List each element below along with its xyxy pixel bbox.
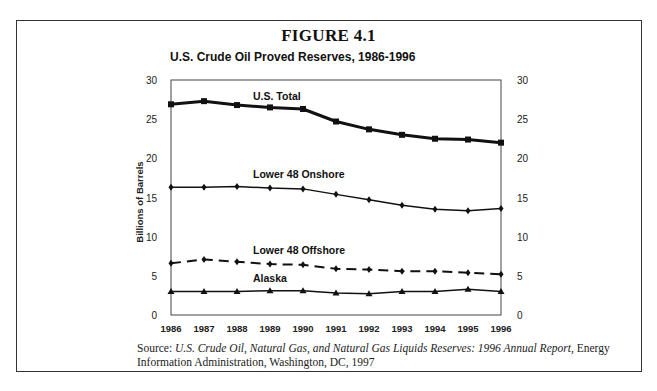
marker-square bbox=[465, 137, 471, 143]
x-tick-label: 1994 bbox=[424, 323, 446, 334]
marker-square bbox=[168, 101, 174, 107]
marker-diamond bbox=[169, 260, 174, 267]
plot-area: 0510152025300510152025301986198719881989… bbox=[134, 75, 529, 334]
x-tick-label: 1991 bbox=[325, 323, 347, 334]
source-citation: Source: U.S. Crude Oil, Natural Gas, and… bbox=[137, 341, 637, 369]
secondary-y-tick-label: 15 bbox=[517, 193, 529, 204]
secondary-y-tick-label: 25 bbox=[517, 114, 529, 125]
source-prefix: Source: bbox=[137, 342, 175, 354]
x-tick-label: 1987 bbox=[193, 323, 214, 334]
marker-square bbox=[432, 136, 438, 142]
x-tick-label: 1988 bbox=[226, 323, 247, 334]
series-label: Lower 48 Onshore bbox=[253, 168, 345, 180]
x-tick-label: 1992 bbox=[358, 323, 379, 334]
y-tick-label: 15 bbox=[146, 193, 158, 204]
marker-diamond bbox=[202, 184, 207, 191]
series-line-lower-48-onshore bbox=[171, 187, 501, 211]
marker-square bbox=[498, 140, 504, 146]
marker-diamond bbox=[235, 258, 240, 265]
x-tick-label: 1986 bbox=[160, 323, 181, 334]
marker-diamond bbox=[400, 202, 405, 209]
marker-diamond bbox=[367, 196, 372, 203]
marker-square bbox=[201, 98, 207, 104]
marker-diamond bbox=[499, 205, 504, 212]
y-tick-label: 25 bbox=[146, 114, 158, 125]
marker-diamond bbox=[466, 269, 471, 276]
marker-square bbox=[399, 132, 405, 138]
x-tick-label: 1995 bbox=[457, 323, 479, 334]
secondary-y-tick-label: 0 bbox=[517, 310, 523, 321]
y-tick-label: 20 bbox=[146, 153, 158, 164]
source-title: U.S. Crude Oil, Natural Gas, and Natural… bbox=[175, 342, 571, 354]
marker-diamond bbox=[334, 191, 339, 198]
y-tick-label: 0 bbox=[151, 310, 157, 321]
marker-diamond bbox=[268, 185, 273, 192]
series-label: U.S. Total bbox=[253, 90, 301, 102]
y-tick-label: 5 bbox=[151, 271, 157, 282]
marker-diamond bbox=[301, 261, 306, 268]
secondary-y-tick-label: 30 bbox=[517, 75, 529, 86]
marker-square bbox=[300, 106, 306, 112]
secondary-y-tick-label: 20 bbox=[517, 153, 529, 164]
marker-diamond bbox=[400, 268, 405, 275]
marker-square bbox=[333, 119, 339, 125]
y-tick-label: 10 bbox=[146, 232, 158, 243]
y-tick-label: 30 bbox=[146, 75, 158, 86]
marker-diamond bbox=[334, 265, 339, 272]
secondary-y-tick-label: 5 bbox=[517, 271, 523, 282]
x-tick-label: 1996 bbox=[490, 323, 511, 334]
marker-diamond bbox=[367, 266, 372, 273]
marker-diamond bbox=[499, 271, 504, 278]
x-tick-label: 1993 bbox=[391, 323, 412, 334]
marker-diamond bbox=[235, 183, 240, 190]
y-axis-label: Billions of Barrels bbox=[134, 161, 145, 242]
marker-diamond bbox=[433, 268, 438, 275]
marker-diamond bbox=[301, 185, 306, 192]
x-tick-label: 1990 bbox=[292, 323, 313, 334]
marker-square bbox=[267, 104, 273, 110]
marker-diamond bbox=[169, 184, 174, 191]
marker-diamond bbox=[466, 207, 471, 214]
line-chart: 0510152025300510152025301986198719881989… bbox=[0, 0, 657, 391]
marker-diamond bbox=[268, 261, 273, 268]
secondary-y-tick-label: 10 bbox=[517, 232, 529, 243]
series-label: Alaska bbox=[253, 272, 287, 284]
marker-square bbox=[366, 126, 372, 132]
marker-square bbox=[234, 102, 240, 108]
series-label: Lower 48 Offshore bbox=[253, 244, 345, 256]
marker-diamond bbox=[433, 206, 438, 213]
x-tick-label: 1989 bbox=[259, 323, 280, 334]
marker-diamond bbox=[202, 256, 207, 263]
